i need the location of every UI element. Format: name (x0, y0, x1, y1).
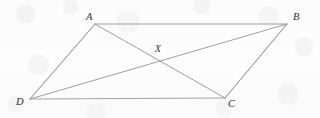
vertex-label-b: B (293, 11, 299, 22)
geometry-figure: A B C D X (0, 0, 320, 118)
edge-bc (225, 24, 287, 98)
vertex-label-c: C (228, 98, 235, 109)
vertex-label-d: D (16, 96, 24, 107)
edge-da (30, 24, 95, 99)
diagonal-db (30, 24, 287, 99)
parallelogram-diagonals (30, 24, 287, 99)
edge-cd (30, 98, 225, 99)
figure-canvas (0, 0, 320, 118)
intersection-label-x: X (155, 44, 161, 55)
vertex-label-a: A (86, 11, 92, 22)
